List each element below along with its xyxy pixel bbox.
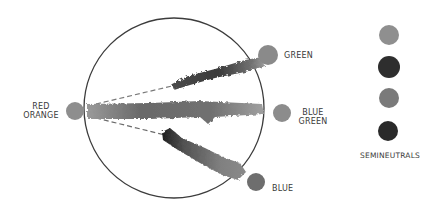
dashed-line-to-green bbox=[96, 86, 172, 104]
swatch-red-orange bbox=[66, 102, 84, 120]
label-red-orange-line2: ORANGE bbox=[22, 111, 60, 120]
label-red-orange-line1: RED bbox=[22, 102, 60, 111]
streak-to-green bbox=[172, 57, 265, 90]
semineutral-swatch-4 bbox=[378, 121, 398, 141]
label-blue-green-line2: GREEN bbox=[296, 117, 330, 126]
swatch-blue-green bbox=[273, 104, 291, 122]
label-green: GREEN bbox=[284, 51, 313, 60]
label-semineutrals: SEMINEUTRALS bbox=[360, 151, 420, 160]
semineutral-swatch-2 bbox=[378, 56, 400, 78]
label-green-line1: GREEN bbox=[284, 51, 313, 60]
streak-to-blue-green bbox=[87, 101, 264, 124]
swatch-blue bbox=[247, 173, 265, 191]
semineutral-swatch-1 bbox=[379, 25, 399, 45]
label-red-orange: RED ORANGE bbox=[22, 102, 60, 120]
dashed-line-to-blue bbox=[96, 118, 165, 135]
label-blue-green-line1: BLUE bbox=[296, 108, 330, 117]
diagram-canvas bbox=[0, 0, 432, 216]
color-mixing-diagram: RED ORANGE GREEN BLUE GREEN BLUE SEMINEU… bbox=[0, 0, 432, 216]
label-blue-green: BLUE GREEN bbox=[296, 108, 330, 126]
semineutral-swatch-3 bbox=[379, 88, 399, 108]
label-blue: BLUE bbox=[272, 184, 293, 193]
streak-to-blue bbox=[162, 128, 246, 180]
label-blue-line1: BLUE bbox=[272, 184, 293, 193]
swatch-green bbox=[258, 45, 278, 65]
